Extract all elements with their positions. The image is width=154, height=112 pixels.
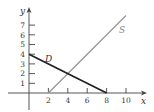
series-label-d: D [44,54,52,64]
y-tick-labels: 1 2 3 4 5 6 7 [20,21,25,88]
x-axis-label: x [141,96,146,106]
y-axis-label: y [19,6,26,16]
y-tick-label: 1 [20,79,25,88]
demand-line-d [29,54,107,93]
y-tick-label: 6 [20,31,25,40]
y-tick-label: 3 [20,60,25,69]
axes [8,7,147,110]
series-label-s: S [119,25,125,35]
x-tick-label: 8 [104,96,109,105]
y-tick-label: 2 [20,69,25,78]
supply-line-s [48,15,126,93]
y-tick-label: 7 [20,21,25,30]
x-tick-label: 4 [65,96,70,105]
x-ticks [48,88,126,93]
x-tick-labels: 2 4 6 8 10 [46,96,131,105]
x-tick-label: 6 [85,96,90,105]
y-tick-label: 5 [20,40,25,49]
x-tick-label: 2 [46,96,51,105]
x-tick-label: 10 [121,96,131,105]
y-tick-label: 4 [20,50,25,59]
supply-demand-chart: 2 4 6 8 10 1 2 3 4 5 6 7 y x D S [0,0,154,112]
